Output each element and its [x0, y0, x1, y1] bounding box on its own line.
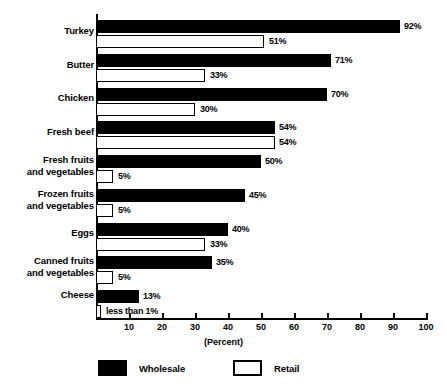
bar-wholesale-butter — [96, 54, 331, 67]
category-label-line: Fresh beef — [47, 126, 94, 138]
x-axis-tick — [261, 313, 263, 319]
bar-value-wholesale-fresh-fruits-and-vegetables: 50% — [265, 155, 282, 168]
bar-wholesale-canned-fruits-and-vegetables — [96, 256, 212, 269]
bar-value-retail-eggs: 33% — [210, 238, 227, 251]
x-axis-tick — [129, 313, 131, 319]
x-axis-tick — [426, 313, 428, 319]
category-label-line: Butter — [67, 59, 94, 71]
category-label-butter: Butter — [67, 59, 94, 71]
legend-swatch-retail-icon — [233, 360, 262, 376]
category-label-line: Eggs — [71, 227, 94, 239]
bar-retail-butter — [96, 69, 205, 82]
category-label-line: and vegetables — [27, 200, 94, 212]
bar-retail-cheese — [96, 305, 101, 318]
category-label-line: Frozen fruits — [27, 188, 94, 200]
bar-value-retail-fresh-beef: 54% — [279, 136, 296, 149]
category-label-line: Turkey — [64, 25, 94, 37]
legend-item-retail: Retail — [233, 360, 299, 376]
plot-area: 92% 51% 71% 33% 70% 30% 54% 54% 50% 5% 4… — [96, 14, 426, 318]
category-label-line: Chicken — [58, 92, 94, 104]
bar-chart: Turkey Butter Chicken Fresh beef Fresh f… — [0, 0, 447, 391]
bar-value-wholesale-butter: 71% — [335, 54, 352, 67]
bar-value-retail-chicken: 30% — [200, 103, 217, 116]
x-axis-tick — [393, 313, 395, 319]
category-label-frozen-fruits-and-vegetables: Frozen fruits and vegetables — [27, 188, 94, 211]
category-label-line: Cheese — [61, 289, 94, 301]
bar-wholesale-cheese — [96, 290, 139, 303]
bar-value-retail-fresh-fruits-and-vegetables: 5% — [118, 170, 131, 183]
bar-retail-fresh-fruits-and-vegetables — [96, 170, 113, 183]
legend-item-wholesale: Wholesale — [98, 360, 185, 376]
x-axis-tick-label: 90 — [388, 322, 398, 332]
bar-wholesale-fresh-fruits-and-vegetables — [96, 155, 261, 168]
bar-retail-turkey — [96, 35, 264, 48]
bar-value-retail-turkey: 51% — [269, 35, 286, 48]
x-axis-tick-label: 30 — [190, 322, 200, 332]
bar-retail-eggs — [96, 238, 205, 251]
bar-value-wholesale-cheese: 13% — [143, 290, 160, 303]
x-axis-tick-label: 70 — [322, 322, 332, 332]
x-axis-tick — [294, 313, 296, 319]
x-axis-tick-label: 20 — [157, 322, 167, 332]
x-axis-tick — [195, 313, 197, 319]
bar-wholesale-fresh-beef — [96, 121, 275, 134]
bar-value-wholesale-canned-fruits-and-vegetables: 35% — [216, 256, 233, 269]
x-axis-tick-label: 60 — [289, 322, 299, 332]
bar-retail-frozen-fruits-and-vegetables — [96, 204, 113, 217]
category-label-line: and vegetables — [27, 267, 94, 279]
bar-value-retail-cheese: less than 1% — [106, 305, 158, 318]
x-axis-tick-label: 80 — [355, 322, 365, 332]
bar-value-retail-butter: 33% — [210, 69, 227, 82]
category-label-canned-fruits-and-vegetables: Canned fruits and vegetables — [27, 255, 94, 278]
category-label-cheese: Cheese — [61, 289, 94, 301]
category-label-chicken: Chicken — [58, 92, 94, 104]
category-label-turkey: Turkey — [64, 25, 94, 37]
bar-value-wholesale-frozen-fruits-and-vegetables: 45% — [249, 189, 266, 202]
x-axis-tick-label: 10 — [124, 322, 134, 332]
x-axis-title: (Percent) — [0, 337, 447, 347]
x-axis-tick-label: 40 — [223, 322, 233, 332]
bar-value-retail-canned-fruits-and-vegetables: 5% — [118, 271, 131, 284]
bar-value-retail-frozen-fruits-and-vegetables: 5% — [118, 204, 131, 217]
x-axis-tick-label: 100 — [418, 322, 433, 332]
x-axis-tick-label: 50 — [256, 322, 266, 332]
category-label-line: Canned fruits — [27, 255, 94, 267]
bar-wholesale-turkey — [96, 20, 400, 33]
x-axis-tick — [360, 313, 362, 319]
category-label-line: Fresh fruits — [27, 154, 94, 166]
category-label-fresh-fruits-and-vegetables: Fresh fruits and vegetables — [27, 154, 94, 177]
category-label-eggs: Eggs — [71, 227, 94, 239]
x-axis-tick — [228, 313, 230, 319]
bar-wholesale-frozen-fruits-and-vegetables — [96, 189, 245, 202]
legend-label-wholesale: Wholesale — [139, 363, 185, 374]
chart-legend: Wholesale Retail — [0, 360, 447, 384]
bar-wholesale-eggs — [96, 223, 228, 236]
bar-retail-chicken — [96, 103, 195, 116]
legend-label-retail: Retail — [274, 363, 299, 374]
category-label-line: and vegetables — [27, 166, 94, 178]
category-label-fresh-beef: Fresh beef — [47, 126, 94, 138]
x-axis-line — [96, 318, 428, 320]
legend-swatch-wholesale-icon — [98, 360, 127, 376]
bar-value-wholesale-chicken: 70% — [331, 88, 348, 101]
bar-value-wholesale-eggs: 40% — [232, 223, 249, 236]
bar-wholesale-chicken — [96, 88, 327, 101]
bar-value-wholesale-turkey: 92% — [404, 20, 421, 33]
x-axis-tick — [162, 313, 164, 319]
bar-retail-fresh-beef — [96, 136, 275, 149]
bar-value-wholesale-fresh-beef: 54% — [279, 121, 296, 134]
bar-retail-canned-fruits-and-vegetables — [96, 271, 113, 284]
x-axis-tick — [327, 313, 329, 319]
